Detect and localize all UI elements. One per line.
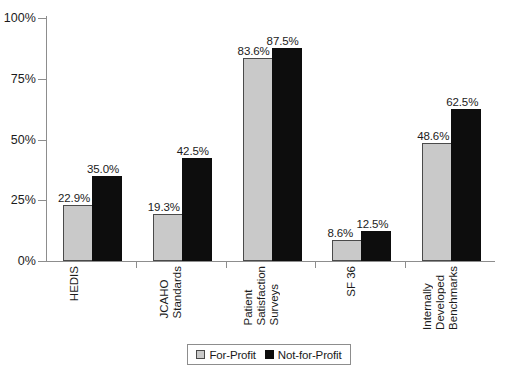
x-axis-label-line: Patient: [242, 266, 255, 325]
x-axis-category-labels: HEDISJCAHOStandardsPatientSatisfactionSu…: [46, 266, 495, 342]
legend-item: Not-for-Profit: [265, 349, 342, 361]
legend-label: Not-for-Profit: [278, 349, 342, 361]
bar-not-for-profit: [182, 158, 212, 261]
bar-value-label: 62.5%: [446, 96, 478, 108]
legend-swatch-dark: [265, 350, 274, 359]
x-axis-label-line: Satisfaction: [255, 266, 268, 325]
x-axis-label: HEDIS: [68, 266, 81, 301]
y-axis-tick-label: 100%: [4, 11, 36, 25]
x-axis-label-line: Surveys: [268, 266, 281, 325]
bar-value-label: 48.6%: [417, 130, 449, 142]
y-axis-tick-label: 75%: [11, 72, 36, 86]
y-axis-tick: [38, 261, 47, 262]
x-axis-tick: [315, 261, 316, 268]
bar-group: 83.6%87.5%: [226, 18, 316, 261]
x-axis-tick: [226, 261, 227, 268]
bar-for-profit: [153, 214, 183, 261]
x-axis-label-line: Benchmarks: [447, 266, 460, 330]
x-axis-label-line: JCAHO: [158, 266, 171, 318]
bar-value-label: 42.5%: [177, 145, 209, 157]
bar-group: 22.9%35.0%: [46, 18, 136, 261]
x-axis-label: InternallyDevelopedBenchmarks: [421, 266, 460, 330]
legend-label: For-Profit: [209, 349, 255, 361]
bar-not-for-profit: [272, 48, 302, 261]
bar-for-profit: [243, 58, 273, 261]
x-axis-label-line: SF 36: [345, 266, 358, 297]
y-axis-tick-label: 25%: [11, 193, 36, 207]
bar-not-for-profit: [92, 176, 122, 261]
bar-for-profit: [63, 205, 93, 261]
bar-value-label: 8.6%: [327, 227, 353, 239]
bar-for-profit: [332, 240, 362, 261]
bar-not-for-profit: [451, 109, 481, 261]
legend-swatch-light: [196, 350, 205, 359]
x-axis-label-line: Developed: [434, 266, 447, 330]
x-axis-label: SF 36: [345, 266, 358, 297]
bar-value-label: 87.5%: [267, 35, 299, 47]
bar-value-label: 83.6%: [238, 45, 270, 57]
bar-not-for-profit: [361, 231, 391, 261]
chart-legend: For-ProfitNot-for-Profit: [187, 344, 351, 365]
x-axis-label-line: Internally: [421, 266, 434, 330]
bar-chart: 0%25%50%75%100% 22.9%35.0%19.3%42.5%83.6…: [0, 0, 507, 372]
x-axis-label: PatientSatisfactionSurveys: [242, 266, 281, 325]
bar-group: 8.6%12.5%: [315, 18, 405, 261]
bar-group: 19.3%42.5%: [136, 18, 226, 261]
y-axis-tick-label: 50%: [11, 133, 36, 147]
bar-value-label: 35.0%: [87, 163, 119, 175]
x-axis-label-line: HEDIS: [68, 266, 81, 301]
y-axis-tick-label: 0%: [18, 254, 36, 268]
bar-group: 48.6%62.5%: [405, 18, 495, 261]
plot-area: 22.9%35.0%19.3%42.5%83.6%87.5%8.6%12.5%4…: [46, 18, 495, 261]
x-axis-tick: [136, 261, 137, 268]
x-axis-line: [46, 261, 495, 262]
bar-value-label: 12.5%: [356, 218, 388, 230]
x-axis-tick: [405, 261, 406, 268]
x-axis-label-line: Standards: [171, 266, 184, 318]
bar-value-label: 22.9%: [58, 192, 90, 204]
bar-value-label: 19.3%: [148, 201, 180, 213]
bar-for-profit: [422, 143, 452, 261]
x-axis-label: JCAHOStandards: [158, 266, 184, 318]
legend-item: For-Profit: [196, 349, 255, 361]
